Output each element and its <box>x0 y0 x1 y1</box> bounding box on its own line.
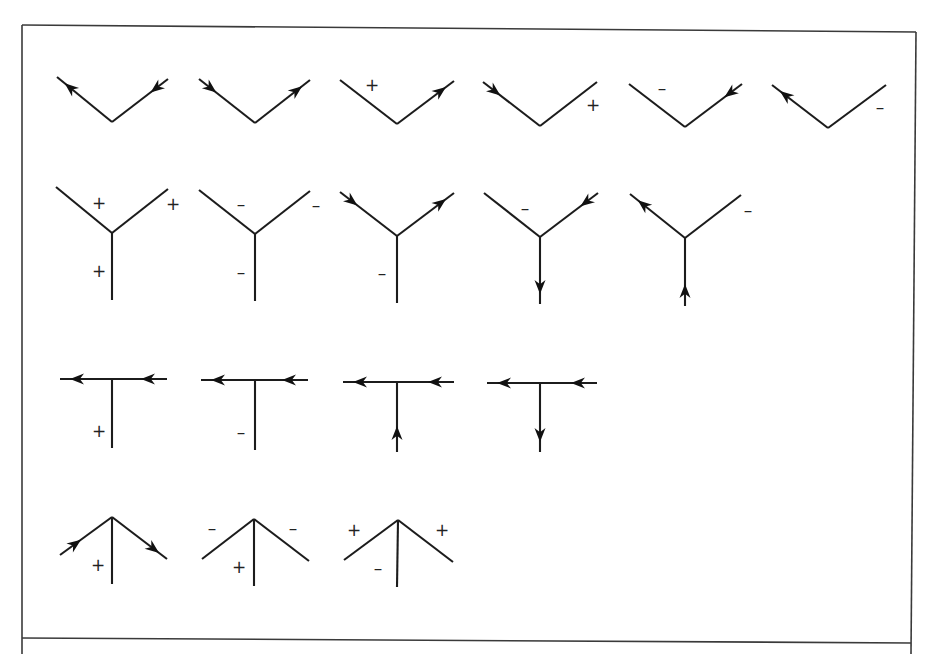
convex-label: + <box>347 520 361 540</box>
junction: ++– <box>344 520 453 587</box>
junction: – <box>629 78 742 127</box>
junction-label-diagram: ++––+++––––––+–+––+++– <box>0 0 933 654</box>
arrowhead-icon <box>145 540 160 553</box>
concave-label: – <box>374 558 383 578</box>
convex-label: + <box>435 520 449 540</box>
convex-label: + <box>232 557 246 577</box>
junction <box>57 77 168 122</box>
concave-label: – <box>237 422 246 442</box>
junction <box>343 377 454 453</box>
convex-label: + <box>166 194 180 214</box>
arrowhead-icon <box>66 540 81 553</box>
concave-label: – <box>744 200 753 220</box>
junction: – <box>201 375 308 451</box>
arrowhead-icon <box>432 87 447 100</box>
frame-top-border <box>22 25 916 32</box>
junction: – <box>340 192 454 303</box>
figure-frame <box>22 25 916 654</box>
junction-rows: ++––+++––––––+–+––+++– <box>56 75 886 587</box>
frame-right-border <box>911 32 916 654</box>
junction: + <box>60 374 167 449</box>
junction-edge <box>60 517 112 555</box>
concave-label: – <box>876 97 885 117</box>
row-t-junctions: +– <box>60 374 597 453</box>
concave-label: – <box>289 518 298 538</box>
frame-bottom-border <box>22 638 911 643</box>
junction: ––+ <box>202 518 309 586</box>
junction-edge <box>685 84 742 127</box>
junction: – <box>630 194 752 306</box>
arrowhead-icon <box>288 86 302 99</box>
junction-edge <box>112 79 168 122</box>
junction: – <box>772 85 886 128</box>
convex-label: + <box>92 193 106 213</box>
concave-label: – <box>312 195 321 215</box>
junction-edge <box>340 192 397 236</box>
junction-edge <box>540 193 598 237</box>
junction-edge <box>112 189 168 233</box>
arrowhead-icon <box>724 84 739 97</box>
junction-edge <box>199 190 255 234</box>
arrowhead-icon <box>581 194 596 207</box>
concave-label: – <box>521 198 530 218</box>
arrowhead-icon <box>151 80 165 93</box>
junction: + <box>483 82 600 126</box>
arrowhead-icon <box>343 193 357 206</box>
junction-edge <box>199 79 255 123</box>
arrowhead-icon <box>486 83 500 96</box>
convex-label: + <box>586 95 600 115</box>
arrowhead-icon <box>780 91 795 104</box>
junction: + <box>60 517 167 584</box>
concave-label: – <box>237 262 246 282</box>
concave-label: – <box>208 518 217 538</box>
concave-label: – <box>378 263 387 283</box>
junction: + <box>340 75 454 124</box>
row-l-junctions: ++–– <box>57 75 886 128</box>
concave-label: – <box>658 78 667 98</box>
junction-edge <box>484 193 540 237</box>
junction-edge <box>255 191 310 234</box>
convex-label: + <box>365 75 379 95</box>
arrowhead-icon <box>202 80 216 93</box>
convex-label: + <box>92 261 106 281</box>
junction-edge <box>397 520 398 587</box>
junction-edge <box>685 195 741 238</box>
concave-label: – <box>237 194 246 214</box>
convex-label: + <box>92 421 106 441</box>
row-arrow-junctions: +––+++– <box>60 517 453 587</box>
junction: – <box>484 193 598 304</box>
junction-edge <box>483 82 540 126</box>
junction <box>199 79 310 123</box>
convex-label: + <box>91 555 105 575</box>
junction: +++ <box>56 187 180 300</box>
junction-edge <box>254 519 309 561</box>
junction: ––– <box>199 190 320 301</box>
junction <box>487 378 597 453</box>
arrowhead-icon <box>432 199 447 212</box>
row-fork-y-junctions: +++–––––– <box>56 187 752 306</box>
